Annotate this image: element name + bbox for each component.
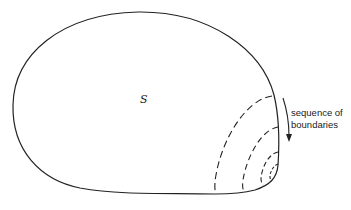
caption-line-2: boundaries bbox=[291, 119, 343, 131]
dashed-boundary-3 bbox=[261, 152, 278, 185]
region-label: S bbox=[140, 93, 148, 106]
sequence-arrow-shaft bbox=[283, 98, 289, 136]
diagram-canvas bbox=[0, 0, 351, 210]
arrow-caption: sequence of boundaries bbox=[291, 107, 343, 131]
caption-line-1: sequence of bbox=[291, 107, 343, 119]
dashed-boundary-2 bbox=[243, 127, 278, 191]
arrow-down-icon bbox=[286, 134, 292, 142]
